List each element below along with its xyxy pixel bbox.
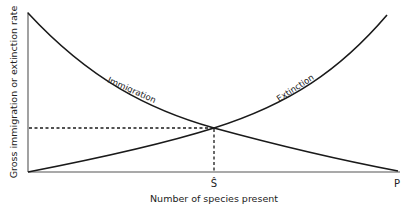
y-axis-title: Gross immigration or extinction rate xyxy=(8,5,19,178)
immigration-curve xyxy=(28,13,398,171)
macarthur-wilson-chart: Immigration Extinction Ŝ P Number of spe… xyxy=(0,0,410,214)
x-axis-title: Number of species present xyxy=(150,193,278,204)
extinction-label: Extinction xyxy=(275,72,316,104)
immigration-label: Immigration xyxy=(106,75,157,105)
extinction-curve xyxy=(28,15,387,172)
x-tick-p: P xyxy=(394,178,400,189)
x-tick-s-hat: Ŝ xyxy=(211,177,217,189)
